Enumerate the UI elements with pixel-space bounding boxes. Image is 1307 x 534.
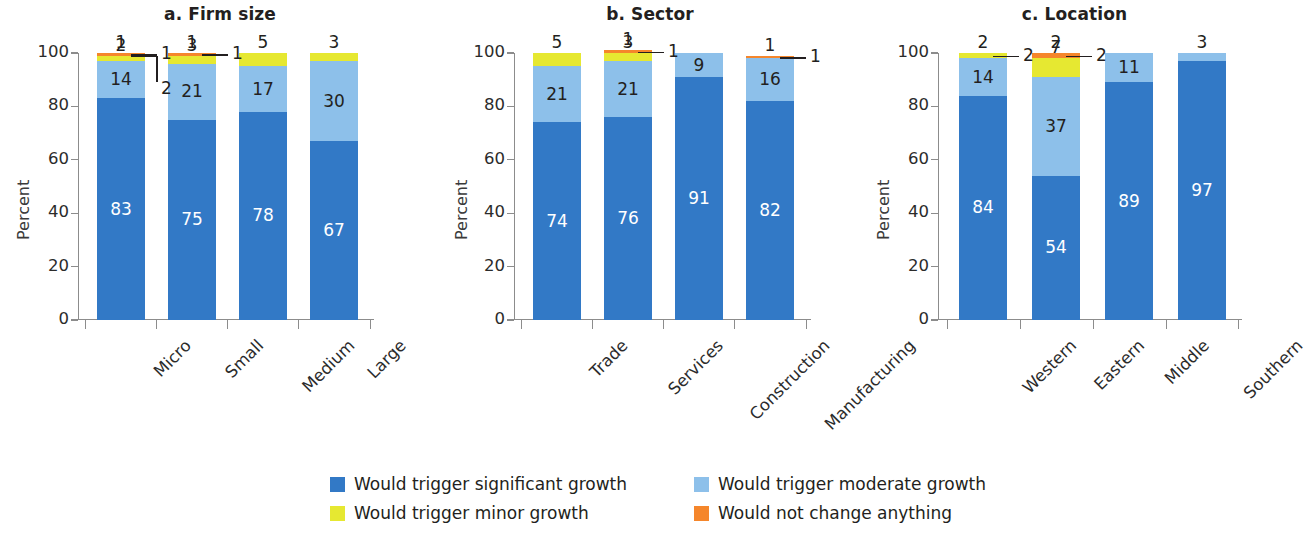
y-axis-tick-label: 20 (875, 256, 929, 275)
y-axis-tick-label: 20 (15, 256, 69, 275)
legend-label: Would trigger minor growth (354, 505, 589, 522)
x-axis-tick (1238, 320, 1239, 329)
bar-segment-significant: 89 (1105, 82, 1153, 320)
bar-value-label: 82 (759, 202, 781, 219)
x-axis-tick (663, 320, 664, 329)
legend-item[interactable]: Would trigger moderate growth (694, 476, 986, 493)
y-axis-tick-label: 0 (875, 309, 929, 328)
bar-value-label: 75 (181, 211, 203, 228)
bar-value-label: 3 (1178, 34, 1226, 51)
bar-segment-significant: 76 (604, 117, 652, 320)
y-axis-tick-label: 80 (15, 95, 69, 114)
bar-segment-minor: 5 (533, 53, 581, 66)
legend-swatch-icon (330, 506, 345, 521)
callout-value-label: 1 (232, 45, 243, 62)
y-axis-tick (507, 159, 514, 160)
bar-segment-significant: 84 (959, 96, 1007, 320)
x-axis-tick (592, 320, 593, 329)
callout-leader-line (131, 56, 157, 58)
bar-value-label: 1 (746, 37, 794, 54)
bar-value-label: 21 (617, 81, 639, 98)
callout-value-label: 2 (161, 80, 172, 97)
bar-southern[interactable]: 973 (1178, 53, 1226, 320)
y-axis-tick-label: 20 (451, 256, 505, 275)
x-axis-tick (227, 320, 228, 329)
bar-value-label: 1 (604, 31, 652, 48)
plot-area-b: 02040608010074215Trade762131Services919C… (521, 53, 803, 320)
x-axis-tick (370, 320, 371, 329)
y-axis-tick (931, 213, 938, 214)
y-axis-tick-label: 0 (15, 309, 69, 328)
x-axis-tick (1166, 320, 1167, 329)
plot-area-a: 020406080100831421Micro752131Small78175M… (85, 53, 366, 320)
y-axis-tick-label: 60 (15, 149, 69, 168)
bar-value-label: 76 (617, 210, 639, 227)
y-axis-tick (71, 106, 78, 107)
bar-trade[interactable]: 74215 (533, 53, 581, 320)
bar-middle[interactable]: 8911 (1105, 53, 1153, 320)
x-axis-tick (1020, 320, 1021, 329)
bar-segment-significant: 82 (746, 101, 794, 320)
bar-value-label: 2 (1032, 34, 1080, 51)
y-axis-tick (507, 106, 514, 107)
bar-western[interactable]: 84142 (959, 53, 1007, 320)
bar-construction[interactable]: 919 (675, 53, 723, 320)
y-axis-tick (71, 319, 78, 320)
bar-value-label: 2 (959, 34, 1007, 51)
x-axis-tick (85, 320, 86, 329)
y-axis-line (938, 53, 939, 320)
legend-item[interactable]: Would trigger significant growth (330, 476, 627, 493)
bar-value-label: 83 (110, 201, 132, 218)
legend-item[interactable]: Would not change anything (694, 505, 952, 522)
bar-segment-significant: 54 (1032, 176, 1080, 320)
chart-legend: Would trigger significant growthWould tr… (330, 474, 970, 532)
bar-segment-significant: 74 (533, 122, 581, 320)
bar-value-label: 84 (972, 199, 994, 216)
bar-segment-moderate: 17 (239, 66, 287, 111)
bar-eastern[interactable]: 543772 (1032, 53, 1080, 320)
y-axis-tick (931, 159, 938, 160)
x-axis-tick (734, 320, 735, 329)
panel-c-title: c. Location (860, 4, 1289, 24)
legend-item[interactable]: Would trigger minor growth (330, 505, 589, 522)
y-axis-tick-label: 100 (875, 42, 929, 61)
bar-value-label: 11 (1118, 59, 1140, 76)
bar-segment-significant: 78 (239, 112, 287, 320)
y-axis-tick (931, 319, 938, 320)
y-axis-tick (507, 213, 514, 214)
legend-swatch-icon (694, 506, 709, 521)
legend-label: Would trigger significant growth (354, 476, 627, 493)
callout-value-label: 2 (1096, 47, 1107, 64)
bar-value-label: 1 (97, 34, 145, 51)
bar-value-label: 91 (688, 190, 710, 207)
callout-leader-line (993, 56, 1019, 58)
x-axis-tick (947, 320, 948, 329)
bar-value-label: 21 (546, 86, 568, 103)
callout-leader-line (202, 54, 228, 56)
legend-label: Would trigger moderate growth (718, 476, 986, 493)
bar-value-label: 16 (759, 71, 781, 88)
y-axis-tick (931, 266, 938, 267)
bar-segment-moderate: 3 (1178, 53, 1226, 61)
bar-large[interactable]: 67303 (310, 53, 358, 320)
bar-value-label: 14 (110, 71, 132, 88)
bar-segment-moderate: 21 (168, 64, 216, 120)
bar-small[interactable]: 752131 (168, 53, 216, 320)
y-axis-tick (507, 266, 514, 267)
bar-value-label: 5 (239, 34, 287, 51)
callout-leader-line (638, 52, 664, 54)
bar-manufacturing[interactable]: 82161 (746, 53, 794, 320)
callout-leader-line (156, 56, 158, 82)
bar-segment-minor: 3 (168, 56, 216, 64)
bar-segment-moderate: 21 (604, 61, 652, 117)
callout-value-label: 2 (1023, 47, 1034, 64)
bar-value-label: 5 (533, 34, 581, 51)
legend-label: Would not change anything (718, 505, 952, 522)
bar-segment-significant: 83 (97, 98, 145, 320)
bar-micro[interactable]: 831421 (97, 53, 145, 320)
callout-value-label: 1 (161, 45, 172, 62)
bar-value-label: 74 (546, 213, 568, 230)
bar-services[interactable]: 762131 (604, 53, 652, 320)
y-axis-tick (71, 52, 78, 53)
bar-medium[interactable]: 78175 (239, 53, 287, 320)
